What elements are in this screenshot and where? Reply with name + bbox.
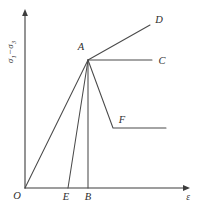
- y-axis-label-container: σ1−σ3: [3, 26, 19, 78]
- label-point-D: D: [154, 14, 163, 25]
- plot-canvas: O A B C D E F ε: [0, 0, 205, 212]
- y-axis-label-minus: −: [5, 49, 15, 55]
- y-axis-label-sub1: 1: [10, 55, 17, 58]
- curve-hardening-AD: [88, 25, 150, 60]
- x-axis-label: ε: [186, 192, 190, 202]
- label-point-F: F: [118, 114, 126, 125]
- y-axis-label-sigma1: σ: [5, 59, 15, 64]
- label-point-O: O: [13, 190, 21, 201]
- y-axis-label: σ1−σ3: [5, 41, 17, 63]
- label-point-E: E: [62, 191, 70, 202]
- x-axis-arrow-icon: [183, 185, 190, 191]
- curve-initial-loading-OA: [25, 60, 88, 188]
- y-axis-label-sigma3: σ: [5, 44, 15, 49]
- point-label-group: O A B C D E F: [13, 14, 166, 202]
- label-point-C: C: [158, 55, 166, 66]
- curve-softening-AF-residual: [88, 60, 166, 128]
- y-axis-arrow-icon: [22, 9, 28, 16]
- stress-strain-figure: O A B C D E F ε σ1−σ3: [0, 0, 205, 212]
- label-point-B: B: [85, 191, 92, 202]
- axis-group: [22, 9, 190, 191]
- curve-group: [25, 25, 166, 188]
- label-point-A: A: [77, 41, 85, 52]
- y-axis-label-sub2: 3: [10, 41, 17, 44]
